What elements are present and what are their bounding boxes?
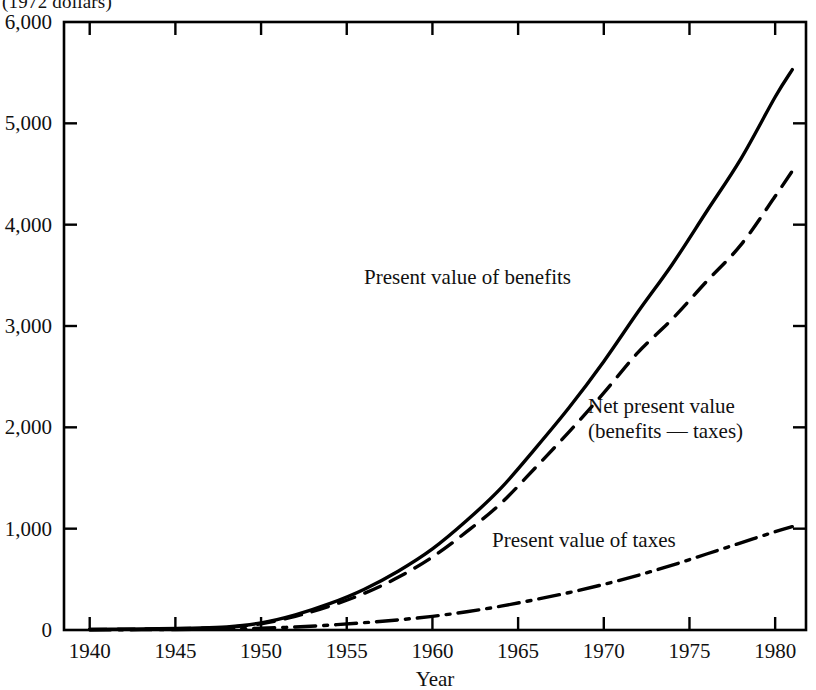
x-tick-label: 1955 — [326, 639, 368, 664]
data-series-layer — [90, 70, 793, 630]
npv-label-line2: (benefits — taxes) — [588, 419, 743, 443]
series-label-benefits: Present value of benefits — [364, 265, 571, 290]
axis-frame — [64, 22, 806, 630]
x-tick-label: 1965 — [497, 639, 539, 664]
axis-ticks — [64, 22, 806, 630]
y-tick-label: 5,000 — [0, 111, 52, 136]
x-tick-label: 1975 — [668, 639, 710, 664]
y-tick-label: 6,000 — [0, 10, 52, 35]
series-label-net-present-value: Net present value (benefits — taxes) — [588, 394, 743, 444]
series-line-0 — [90, 70, 793, 630]
x-axis-title: Year — [416, 667, 455, 690]
npv-label-line1: Net present value — [588, 394, 735, 418]
x-tick-label: 1940 — [69, 639, 111, 664]
y-tick-label: 4,000 — [0, 212, 52, 237]
plot-frame — [64, 22, 806, 630]
x-tick-label: 1950 — [240, 639, 282, 664]
y-tick-label: 0 — [0, 618, 52, 643]
y-tick-label: 3,000 — [0, 314, 52, 339]
x-tick-label: 1970 — [583, 639, 625, 664]
x-tick-label: 1960 — [411, 639, 453, 664]
y-tick-label: 2,000 — [0, 415, 52, 440]
y-tick-label: 1,000 — [0, 516, 52, 541]
x-tick-label: 1945 — [154, 639, 196, 664]
x-tick-label: 1980 — [754, 639, 796, 664]
series-label-taxes: Present value of taxes — [492, 528, 676, 553]
